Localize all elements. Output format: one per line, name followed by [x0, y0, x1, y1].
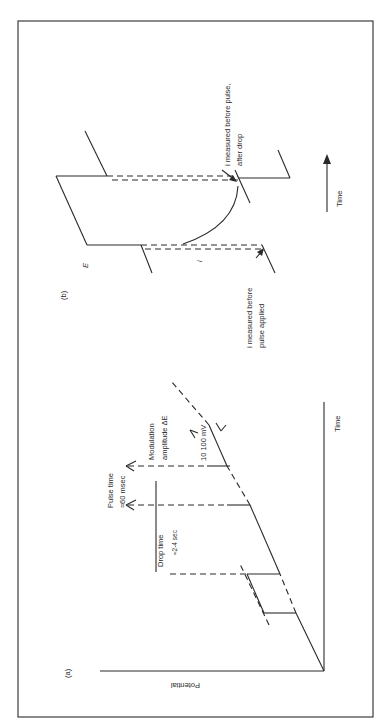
- waveform-b-segment-7: [278, 150, 290, 178]
- after-drop-label-1: i measured before pulse,: [223, 83, 232, 166]
- panel-b-i-label: i: [195, 260, 204, 262]
- pulse-tick-1a: [126, 505, 134, 510]
- time-axis-label-a: Time: [333, 416, 342, 432]
- waveform-b-segment-9: [235, 170, 250, 203]
- before-pulse-label-2: pulse applied: [257, 304, 266, 348]
- step-a-1-v: [247, 574, 264, 613]
- panel-b-e-label: E: [81, 262, 90, 268]
- mod-tick-2b: [221, 425, 226, 431]
- modulation-range-label: 10 100 mV: [199, 425, 208, 461]
- drop-time-label-1: Drop time: [156, 534, 165, 567]
- dash-a-ramp-1: [280, 574, 296, 613]
- pulse-tick-1b: [126, 500, 136, 505]
- pulse-tick-2a: [126, 466, 134, 471]
- current-decay-curve: [183, 186, 238, 244]
- dash-a-ramp-3: [227, 466, 250, 505]
- potential-axis-label: Potential: [170, 681, 200, 690]
- waveform-b-segment-1: [85, 131, 107, 176]
- waveform-b-segment-8: [262, 245, 275, 273]
- panel-b-label: (b): [59, 290, 68, 300]
- mod-tick-2a: [216, 423, 221, 431]
- time-arrow-b-head: [323, 154, 331, 164]
- ramp-a-seg-2: [250, 505, 280, 574]
- after-drop-label-2: after drop: [235, 134, 244, 166]
- figure-frame: [18, 21, 373, 717]
- panel-a-label: (a): [63, 668, 72, 678]
- waveform-b-segment-3: [56, 176, 87, 245]
- pulse-tick-2b: [126, 461, 136, 466]
- pulse-time-label-1: Pulse time: [106, 473, 115, 508]
- dash-a-ramp-2: [240, 564, 269, 625]
- before-pulse-label-1: i measured before: [245, 288, 254, 348]
- ramp-a-main: [296, 613, 324, 671]
- pulse-time-label-2: ≈60 msec: [118, 475, 127, 508]
- figure-canvas: (b) E i i measured before pulse, after d…: [0, 0, 384, 725]
- modulation-label-1: Modulation: [147, 423, 156, 460]
- panel-b: (b) E i i measured before pulse, after d…: [56, 83, 344, 348]
- time-label-b: Time: [335, 191, 344, 207]
- dash-a-ramp-4: [171, 381, 209, 425]
- panel-a: (a) Potential Time Pulse time ≈60 msec D…: [63, 381, 342, 690]
- ramp-a-seg-3: [209, 425, 227, 466]
- drop-time-label-2: ≈2-4 sec: [171, 529, 178, 555]
- modulation-label-2: amplitude ΔE: [160, 415, 169, 460]
